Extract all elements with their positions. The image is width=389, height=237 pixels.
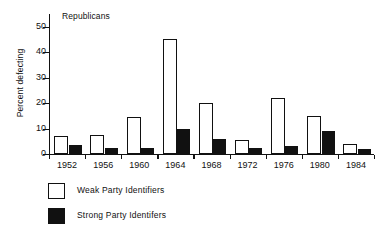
x-tick-mark bbox=[374, 155, 375, 159]
bar-weak-1984 bbox=[343, 144, 357, 154]
x-tick-mark bbox=[49, 155, 50, 159]
x-tick-mark bbox=[266, 155, 267, 159]
bar-weak-1952 bbox=[54, 136, 68, 154]
y-tick-label: 30 bbox=[36, 72, 46, 83]
x-axis-line bbox=[49, 154, 374, 155]
plot-area: 01020304050 1952195619601964196819721976… bbox=[49, 14, 374, 155]
bar-strong-1960 bbox=[141, 148, 154, 154]
x-tick-label-1968: 1968 bbox=[193, 160, 229, 171]
bar-strong-1952 bbox=[69, 145, 82, 154]
y-axis-line bbox=[49, 14, 50, 155]
x-tick-label-1964: 1964 bbox=[157, 160, 193, 171]
x-tick-label-1972: 1972 bbox=[230, 160, 266, 171]
x-tick-mark bbox=[230, 155, 231, 159]
bar-weak-1956 bbox=[90, 135, 104, 154]
legend-label-weak: Weak Party Identifiers bbox=[77, 185, 164, 195]
bar-strong-1976 bbox=[285, 146, 298, 154]
x-tick-label-1976: 1976 bbox=[266, 160, 302, 171]
bar-weak-1972 bbox=[235, 140, 249, 154]
y-tick-label: 50 bbox=[36, 21, 46, 32]
y-tick-label: 40 bbox=[36, 46, 46, 57]
x-tick-label-1980: 1980 bbox=[302, 160, 338, 171]
x-tick-mark bbox=[193, 155, 194, 159]
bar-strong-1972 bbox=[249, 148, 262, 154]
bar-weak-1968 bbox=[199, 103, 213, 154]
bar-weak-1960 bbox=[127, 117, 141, 154]
bar-chart: Percent defecting Republicans 0102030405… bbox=[0, 0, 389, 237]
y-tick-label: 20 bbox=[36, 97, 46, 108]
bar-weak-1964 bbox=[163, 39, 177, 154]
y-tick-label: 0 bbox=[41, 148, 46, 159]
bar-strong-1956 bbox=[105, 148, 118, 154]
x-tick-label-1960: 1960 bbox=[121, 160, 157, 171]
bar-weak-1980 bbox=[307, 116, 321, 154]
open-square-swatch-icon bbox=[48, 183, 65, 199]
x-tick-label-1956: 1956 bbox=[85, 160, 121, 171]
x-tick-mark bbox=[302, 155, 303, 159]
bar-strong-1968 bbox=[213, 139, 226, 154]
bar-weak-1976 bbox=[271, 98, 285, 154]
bar-strong-1984 bbox=[358, 149, 371, 154]
x-tick-mark bbox=[338, 155, 339, 159]
legend-label-strong: Strong Party Identifers bbox=[77, 210, 166, 220]
y-tick-label: 10 bbox=[36, 123, 46, 134]
y-axis-label: Percent defecting bbox=[15, 28, 25, 138]
filled-square-swatch-icon bbox=[48, 208, 65, 224]
x-tick-label-1952: 1952 bbox=[49, 160, 85, 171]
bar-strong-1964 bbox=[177, 129, 190, 154]
x-tick-mark bbox=[157, 155, 158, 159]
x-tick-mark bbox=[121, 155, 122, 159]
bar-strong-1980 bbox=[322, 131, 335, 154]
x-tick-mark bbox=[85, 155, 86, 159]
x-tick-label-1984: 1984 bbox=[338, 160, 374, 171]
